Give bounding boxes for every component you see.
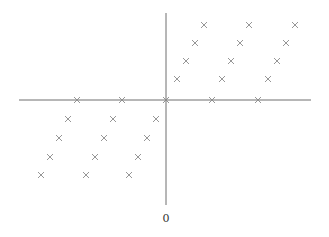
x-marker-icon	[192, 40, 198, 46]
x-marker-icon	[228, 58, 234, 64]
x-marker-icon	[174, 76, 180, 82]
x-marker-icon	[201, 22, 207, 28]
x-marker-icon	[274, 58, 280, 64]
origin-label: 0	[163, 212, 170, 225]
x-marker-icon	[47, 154, 53, 160]
x-marker-icon	[153, 116, 159, 122]
x-marker-icon	[83, 172, 89, 178]
x-marker-icon	[219, 76, 225, 82]
x-marker-icon	[144, 135, 150, 141]
x-marker-icon	[265, 76, 271, 82]
x-marker-icon	[292, 22, 298, 28]
x-marker-icon	[110, 116, 116, 122]
x-marker-icon	[135, 154, 141, 160]
x-marker-icon	[237, 40, 243, 46]
x-marker-icon	[65, 116, 71, 122]
x-marker-icon	[283, 40, 289, 46]
x-marker-icon	[126, 172, 132, 178]
x-marker-icon	[246, 22, 252, 28]
lattice-diagram: 0	[0, 0, 329, 237]
x-marker-icon	[183, 58, 189, 64]
x-marker-icon	[56, 135, 62, 141]
x-marker-icon	[38, 172, 44, 178]
x-marker-icon	[101, 135, 107, 141]
x-marker-icon	[92, 154, 98, 160]
